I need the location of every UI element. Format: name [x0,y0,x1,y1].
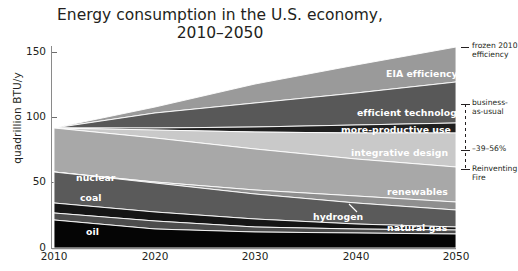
annotation-frozen-2010-efficiency: frozen 2010 efficiency [472,42,518,59]
annotation-bau-line2: as-usual [472,107,504,116]
annotation-tick-reinventing-fire [461,169,470,170]
band-label-hydrogen: hydrogen [313,211,363,222]
band-label-efficient-technologies: efficient technologies [357,107,472,118]
band-label-integrative-design: integrative design [351,147,448,158]
x-tick-2040: 2040 [336,250,376,262]
annotation-tick-reduction [461,150,470,151]
band-label-eia-efficiency: EIA efficiency [386,68,458,79]
annotation-reinventing-fire: Reinventing Fire [472,165,517,182]
annotation-dashed-line-reduction [465,153,466,168]
annotation-dashed-line-bau [465,104,466,150]
x-tick-2050: 2050 [436,250,476,262]
annotation-rf-line2: Fire [472,173,486,182]
annotation-business-as-usual: business- as-usual [472,99,508,116]
band-label-nuclear: nuclear [76,172,115,183]
band-label-more-productive-use: more-productive use [341,124,451,135]
x-tick-2030: 2030 [235,250,275,262]
x-tick-2010: 2010 [34,250,74,262]
annotation-reduction-range: –39–56% [472,145,506,154]
x-tick-2020: 2020 [135,250,175,262]
annotation-tick-frozen [461,47,469,48]
band-label-natural-gas: natural gas [387,222,447,233]
annotation-frozen-line2: efficiency [472,50,508,59]
band-label-oil: oil [86,226,99,237]
band-label-coal: coal [80,192,102,203]
band-label-renewables: renewables [387,186,448,197]
